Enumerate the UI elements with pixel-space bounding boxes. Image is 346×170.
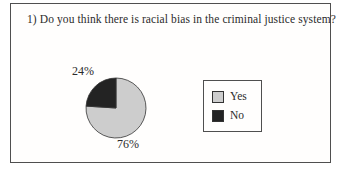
legend-label-no: No — [230, 110, 244, 122]
legend-label-yes: Yes — [230, 91, 247, 103]
pie-chart — [85, 77, 147, 139]
pie-slice-no — [86, 78, 116, 108]
chart-frame-border — [10, 3, 331, 163]
pie-label-yes-percent: 76% — [117, 137, 139, 152]
legend-item-yes: Yes — [212, 91, 261, 103]
legend-box: Yes No — [203, 80, 262, 132]
legend-item-no: No — [212, 110, 261, 122]
chart-panel: 1) Do you think there is racial bias in … — [0, 0, 346, 170]
chart-title: 1) Do you think there is racial bias in … — [27, 13, 327, 25]
legend-swatch-yes — [212, 91, 224, 103]
legend-swatch-no — [212, 110, 224, 122]
